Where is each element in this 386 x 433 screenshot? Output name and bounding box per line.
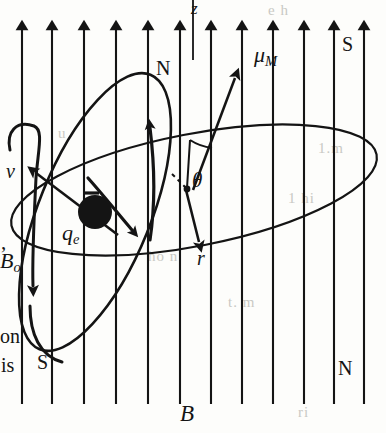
physics-diagram-canvas (0, 0, 386, 433)
orbiting-charge-disc (78, 195, 112, 229)
magnetic-moment-label: μM (254, 44, 277, 69)
orbit-direction-arrow-upper (150, 128, 154, 240)
z-axis-label: z (191, 0, 198, 17)
page-text-bo-subscript: o (13, 259, 20, 275)
figure-page: e h 1.m u 1 hi ho n t. m ri (0, 0, 386, 433)
theta-angle-arc (190, 140, 212, 148)
field-label: B (180, 402, 194, 425)
pole-orbit-north-label: N (156, 58, 170, 78)
magnetic-moment-symbol: μ (254, 42, 265, 67)
pole-orbit-south-label: S (37, 352, 48, 372)
pole-field-south-label: S (342, 34, 353, 54)
page-text-is: is (1, 355, 14, 375)
theta-angle-arc-leg (187, 140, 190, 188)
theta-angle-label: θ (192, 170, 202, 191)
page-text-on: on (0, 326, 20, 346)
pole-field-north-label: N (338, 358, 352, 378)
orbiting-charge-label: qe (62, 222, 79, 247)
radius-vector-label: r (197, 248, 205, 268)
velocity-vector-label: v (6, 161, 15, 181)
radius-vector (186, 190, 199, 242)
charge-symbol: q (62, 220, 73, 245)
magnetic-moment-subscript: M (265, 53, 277, 69)
page-text-bo: Bo (0, 250, 21, 275)
charge-subscript: e (73, 231, 79, 247)
page-text-bo-symbol: B (0, 248, 13, 273)
